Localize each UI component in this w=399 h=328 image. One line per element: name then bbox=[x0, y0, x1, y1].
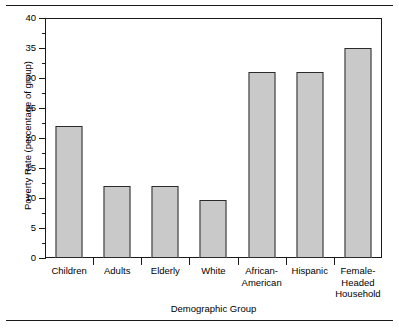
y-axis-tick-major bbox=[39, 258, 46, 259]
x-axis-tick bbox=[334, 258, 335, 265]
bar bbox=[104, 186, 131, 258]
figure-top-rule bbox=[6, 5, 393, 6]
bar bbox=[296, 72, 323, 258]
x-axis-tick bbox=[141, 258, 142, 265]
x-axis-tick bbox=[189, 258, 190, 265]
bar bbox=[56, 126, 83, 258]
x-axis-category-label: Adults bbox=[93, 265, 141, 277]
y-axis-title: Poverty Rate (percentage of group) bbox=[22, 16, 33, 256]
bar-slot bbox=[334, 18, 382, 258]
bar bbox=[344, 48, 371, 258]
figure-bottom-rule bbox=[6, 320, 393, 321]
bar-slot bbox=[93, 18, 141, 258]
bar bbox=[200, 200, 227, 258]
x-axis-category-label: White bbox=[189, 265, 237, 277]
x-axis-tick bbox=[286, 258, 287, 265]
x-axis-tick bbox=[238, 258, 239, 265]
bar-slot bbox=[141, 18, 189, 258]
x-axis-category-label: African- American bbox=[238, 265, 286, 288]
bar-slot bbox=[45, 18, 93, 258]
bar-slot bbox=[286, 18, 334, 258]
x-axis-category-label: Elderly bbox=[141, 265, 189, 277]
x-axis-category-label: Female- Headed Household bbox=[334, 265, 382, 300]
x-axis-title: Demographic Group bbox=[45, 303, 382, 314]
bar bbox=[248, 72, 275, 258]
bar-slot bbox=[189, 18, 237, 258]
poverty-rate-bar-chart-figure: 0510152025303540 ChildrenAdultsElderlyWh… bbox=[0, 0, 399, 328]
x-axis-category-label: Hispanic bbox=[286, 265, 334, 277]
bar-slot bbox=[238, 18, 286, 258]
x-axis-tick bbox=[93, 258, 94, 265]
bar-series bbox=[45, 18, 382, 258]
bar bbox=[152, 186, 179, 258]
x-axis-category-label: Children bbox=[45, 265, 93, 277]
